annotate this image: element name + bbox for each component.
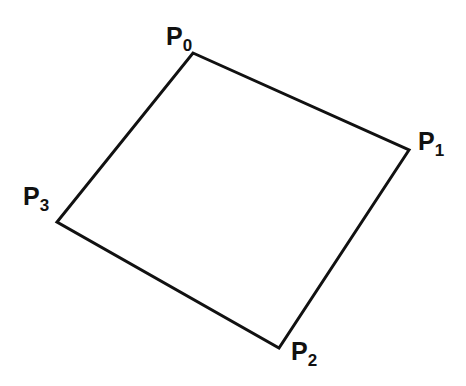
vertex-label-p2-subscript: 2 xyxy=(308,351,317,370)
vertex-label-p0: P0 xyxy=(166,24,192,49)
vertex-label-p0-base: P xyxy=(166,22,183,50)
quadrilateral-figure xyxy=(0,0,466,386)
figure-background xyxy=(0,0,466,386)
vertex-label-p0-subscript: 0 xyxy=(183,36,192,55)
vertex-label-p1-base: P xyxy=(418,127,435,155)
vertex-label-p1-subscript: 1 xyxy=(435,141,444,160)
vertex-label-p3: P3 xyxy=(23,184,49,209)
diagram-canvas: P0 P1 P2 P3 xyxy=(0,0,466,386)
vertex-label-p2-base: P xyxy=(291,337,308,365)
vertex-label-p1: P1 xyxy=(418,129,444,154)
vertex-label-p3-subscript: 3 xyxy=(40,196,49,215)
vertex-label-p3-base: P xyxy=(23,182,40,210)
vertex-label-p2: P2 xyxy=(291,339,317,364)
